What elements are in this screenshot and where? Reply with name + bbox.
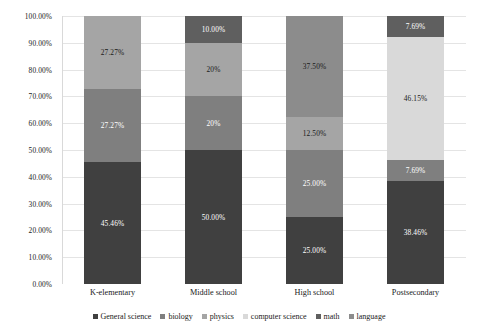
bar-segment-value-label: 7.69% — [406, 22, 426, 31]
legend-item[interactable]: computer science — [243, 312, 307, 321]
bar-stack: 25.00%25.00%12.50%37.50% — [286, 16, 343, 284]
y-axis-tick-label: 40.00% — [29, 172, 52, 181]
legend-item[interactable]: physics — [202, 312, 234, 321]
stacked-bar-chart: 0.00%10.00%20.00%30.00%40.00%50.00%60.00… — [0, 0, 478, 327]
legend-label: physics — [210, 312, 234, 321]
bar-segment[interactable]: 27.27% — [84, 16, 141, 89]
x-axis-category-label: K-elementary — [58, 288, 168, 297]
y-axis-tick-label: 0.00% — [32, 280, 52, 289]
x-axis-category-label: Postsecondary — [361, 288, 471, 297]
y-axis-tick-label: 20.00% — [29, 226, 52, 235]
legend-label: General science — [101, 312, 152, 321]
bar-segment-value-label: 12.50% — [303, 129, 326, 138]
bar-segment[interactable]: 46.15% — [387, 37, 444, 161]
bar-segment-value-label: 46.15% — [404, 94, 427, 103]
y-axis-tick-label: 10.00% — [29, 253, 52, 262]
bar-segment[interactable]: 7.69% — [387, 16, 444, 37]
bar-group[interactable]: 25.00%25.00%12.50%37.50% — [286, 16, 343, 284]
bar-segment-value-label: 38.46% — [404, 228, 427, 237]
bar-segment[interactable]: 12.50% — [286, 117, 343, 151]
bar-segment[interactable]: 7.69% — [387, 160, 444, 181]
bar-segment-value-label: 20% — [207, 65, 221, 74]
y-axis-tick-label: 60.00% — [29, 119, 52, 128]
y-axis-tick-labels: 0.00%10.00%20.00%30.00%40.00%50.00%60.00… — [0, 16, 58, 284]
bar-segment[interactable]: 45.46% — [84, 162, 141, 284]
bar-segment-value-label: 25.00% — [303, 179, 326, 188]
bar-segment[interactable]: 37.50% — [286, 16, 343, 117]
legend-swatch-icon — [349, 314, 354, 319]
bar-segment[interactable]: 27.27% — [84, 89, 141, 162]
bar-segment-value-label: 27.27% — [101, 121, 124, 130]
bar-segment[interactable]: 38.46% — [387, 181, 444, 284]
bar-segment[interactable]: 25.00% — [286, 150, 343, 217]
legend-label: biology — [168, 312, 192, 321]
bar-segment-value-label: 50.00% — [202, 213, 225, 222]
legend-item[interactable]: biology — [160, 312, 192, 321]
legend-swatch-icon — [243, 314, 248, 319]
legend-item[interactable]: General science — [93, 312, 152, 321]
y-axis-tick-label: 50.00% — [29, 146, 52, 155]
bar-stack: 38.46%7.69%46.15%7.69% — [387, 16, 444, 284]
bar-segment[interactable]: 25.00% — [286, 217, 343, 284]
legend-label: language — [357, 312, 386, 321]
bar-segment-value-label: 27.27% — [101, 48, 124, 57]
x-axis-category-labels: K-elementaryMiddle schoolHigh schoolPost… — [62, 288, 466, 302]
legend-label: computer science — [251, 312, 307, 321]
legend-swatch-icon — [316, 314, 321, 319]
legend-item[interactable]: math — [316, 312, 340, 321]
legend-swatch-icon — [202, 314, 207, 319]
bar-group[interactable]: 45.46%27.27%27.27% — [84, 16, 141, 284]
x-axis-category-label: High school — [260, 288, 370, 297]
legend-swatch-icon — [93, 314, 98, 319]
bar-segment[interactable]: 50.00% — [185, 150, 242, 284]
y-axis-tick-label: 70.00% — [29, 92, 52, 101]
bar-group[interactable]: 50.00%20%20%10.00% — [185, 16, 242, 284]
bar-segment-value-label: 25.00% — [303, 246, 326, 255]
y-axis-tick-label: 80.00% — [29, 65, 52, 74]
legend-swatch-icon — [160, 314, 165, 319]
y-axis-tick-label: 30.00% — [29, 199, 52, 208]
y-axis-tick-label: 100.00% — [25, 12, 52, 21]
chart-legend: General sciencebiologyphysicscomputer sc… — [0, 309, 478, 323]
bar-segment-value-label: 10.00% — [202, 25, 225, 34]
legend-item[interactable]: language — [349, 312, 386, 321]
bar-segment[interactable]: 10.00% — [185, 16, 242, 43]
bar-stack: 50.00%20%20%10.00% — [185, 16, 242, 284]
plot-area: 45.46%27.27%27.27%50.00%20%20%10.00%25.0… — [62, 16, 466, 284]
bar-segment-value-label: 20% — [207, 119, 221, 128]
bar-segment[interactable]: 20% — [185, 96, 242, 150]
bar-segment[interactable]: 20% — [185, 43, 242, 97]
legend-label: math — [324, 312, 340, 321]
x-axis-category-label: Middle school — [159, 288, 269, 297]
bar-segment-value-label: 37.50% — [303, 62, 326, 71]
bar-group[interactable]: 38.46%7.69%46.15%7.69% — [387, 16, 444, 284]
y-axis-tick-label: 90.00% — [29, 38, 52, 47]
bar-stack: 45.46%27.27%27.27% — [84, 16, 141, 284]
bar-groups: 45.46%27.27%27.27%50.00%20%20%10.00%25.0… — [62, 16, 466, 284]
bar-segment-value-label: 45.46% — [101, 219, 124, 228]
bar-segment-value-label: 7.69% — [406, 166, 426, 175]
